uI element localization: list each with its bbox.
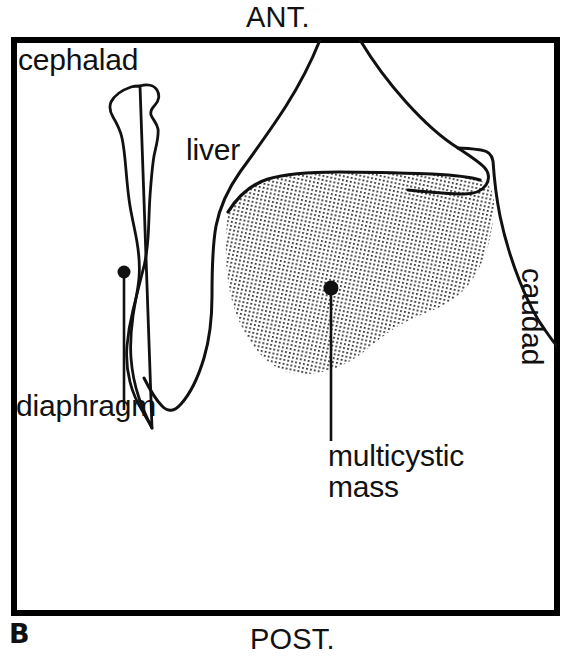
orientation-label-posterior: POST. [250, 624, 335, 654]
orientation-label-caudad: caudad [517, 268, 548, 365]
panel-label: B [9, 620, 30, 648]
orientation-label-cephalad: cephalad [18, 44, 138, 75]
orientation-label-anterior: ANT. [246, 2, 310, 32]
structure-label-multicystic-mass-line1: multicystic [328, 439, 464, 472]
structure-label-liver: liver [186, 134, 240, 165]
structure-label-multicystic-mass: multicysticmass [328, 440, 464, 502]
ultrasound-schematic-figure: ANT. POST. cephalad caudad liver diaphra… [0, 0, 588, 665]
figure-canvas [0, 0, 588, 665]
structure-label-multicystic-mass-line2: mass [328, 471, 464, 502]
diaphragm-marker-dot [118, 266, 131, 279]
structure-label-diaphragm: diaphragm [16, 390, 156, 421]
mass-marker-dot [324, 281, 339, 296]
